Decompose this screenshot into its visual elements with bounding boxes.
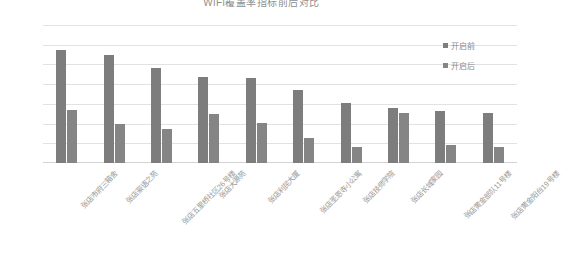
legend-item[interactable]: 开启前 (443, 40, 475, 51)
bar-group (90, 25, 137, 163)
bar (246, 78, 256, 163)
x-axis-label-cell: 张店利民大厦 (233, 166, 280, 258)
legend-label: 开启前 (451, 40, 475, 51)
bar (104, 55, 114, 163)
bar (341, 103, 351, 163)
x-axis-label-cell: 张店豪语之苑 (90, 166, 137, 258)
bar (162, 129, 172, 163)
x-axis-label-cell: 张店技师学院 (327, 166, 374, 258)
bar-group (233, 25, 280, 163)
x-axis-label-cell: 张店长城家园 (375, 166, 422, 258)
x-axis-label-cell: 张店五里桥社区26号楼 (138, 166, 185, 258)
bar-group (327, 25, 374, 163)
bar (304, 138, 314, 163)
bar (388, 108, 398, 163)
legend-swatch-icon (443, 63, 448, 68)
legend-swatch-icon (443, 43, 448, 48)
bar-group (375, 25, 422, 163)
bar-group (185, 25, 232, 163)
x-axis-labels: 张店市府三箱舍张店豪语之苑张店五里桥社区26号楼张店大源苑张店利民大厦张店圣恩寺… (43, 166, 517, 258)
bar (56, 50, 66, 163)
legend-item[interactable]: 开启后 (443, 60, 475, 71)
bar (446, 145, 456, 163)
bar (494, 147, 504, 163)
bar-group (470, 25, 517, 163)
chart-title: WiFi覆盖率指标前后对比 (0, 0, 523, 9)
bar (198, 77, 208, 163)
bar-group (43, 25, 90, 163)
bar-group (138, 25, 185, 163)
bar (435, 111, 445, 163)
x-axis-label-cell: 张店圣恩寺小公寓 (280, 166, 327, 258)
bar (352, 147, 362, 163)
x-axis-label-cell: 张店大源苑 (185, 166, 232, 258)
x-axis-label-cell: 张店黄金阳台19号楼 (470, 166, 517, 258)
chart-legend: 开启前开启后 (443, 40, 475, 80)
bar (293, 90, 303, 163)
x-axis-label-cell: 张店市府三箱舍 (43, 166, 90, 258)
legend-label: 开启后 (451, 60, 475, 71)
bar (67, 110, 77, 163)
bar (399, 113, 409, 163)
bar-group (280, 25, 327, 163)
bar (115, 124, 125, 163)
bar (151, 68, 161, 163)
bar (209, 114, 219, 163)
bar (483, 113, 493, 163)
x-axis-label-cell: 张店黄金部队11号楼 (422, 166, 469, 258)
bar (257, 123, 267, 163)
x-axis-tick-label: 张店黄金阳台19号楼 (508, 168, 561, 221)
